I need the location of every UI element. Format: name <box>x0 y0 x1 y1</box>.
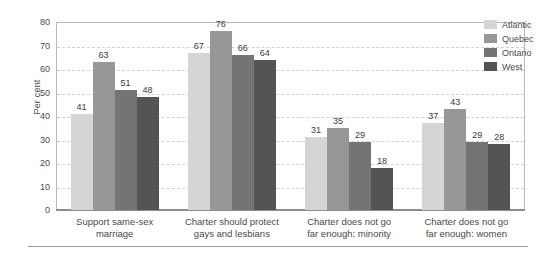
bar-group: 31352918 <box>291 22 408 210</box>
bar-value-label: 43 <box>450 97 460 107</box>
legend-item[interactable]: West <box>484 60 554 73</box>
y-axis-ticks: 80706050403020100 <box>0 22 50 210</box>
bar[interactable] <box>137 97 159 210</box>
legend-label: Quebec <box>502 34 534 44</box>
bar-slot: 67 <box>188 22 210 210</box>
y-axis-tick-label: 0 <box>6 205 50 215</box>
bar-value-label: 29 <box>355 130 365 140</box>
x-axis-category-label-line: marriage <box>56 228 173 240</box>
bar-value-label: 48 <box>143 85 153 95</box>
bar[interactable] <box>188 53 210 210</box>
y-axis-tick-label: 70 <box>6 41 50 51</box>
bar-slot: 43 <box>444 22 466 210</box>
bar-value-label: 41 <box>77 102 87 112</box>
x-axis-category-label-line: Charter does not go <box>291 216 408 228</box>
bar[interactable] <box>422 123 444 210</box>
bar[interactable] <box>210 31 232 210</box>
y-axis-tick-label: 80 <box>6 17 50 27</box>
bar-group: 41635148 <box>56 22 173 210</box>
x-axis-category-label-line: Charter should protect <box>173 216 290 228</box>
y-axis-tick-label: 30 <box>6 135 50 145</box>
bar-slot: 66 <box>232 22 254 210</box>
bar[interactable] <box>371 168 393 210</box>
bar-slot: 18 <box>371 22 393 210</box>
bar[interactable] <box>254 60 276 210</box>
bar[interactable] <box>327 128 349 210</box>
x-axis-category-label-line: Charter does not go <box>408 216 525 228</box>
footer-divider <box>28 246 528 247</box>
x-axis-category-label: Support same-sexmarriage <box>56 216 173 240</box>
bar-value-label: 37 <box>428 111 438 121</box>
legend-swatch-icon <box>484 20 497 29</box>
bar-value-label: 63 <box>99 50 109 60</box>
bar-value-label: 51 <box>121 78 131 88</box>
bar[interactable] <box>93 62 115 210</box>
x-axis-category-label: Charter does not gofar enough: women <box>408 216 525 240</box>
bar[interactable] <box>232 55 254 210</box>
bar-slot: 51 <box>115 22 137 210</box>
legend-item[interactable]: Ontario <box>484 46 554 59</box>
legend-swatch-icon <box>484 62 497 71</box>
bar-value-label: 66 <box>238 43 248 53</box>
bar-slot: 35 <box>327 22 349 210</box>
bar-chart: Per cent 80706050403020100 4163514867766… <box>0 0 556 258</box>
bar-value-label: 29 <box>472 130 482 140</box>
bar[interactable] <box>305 137 327 210</box>
y-axis-tick-label: 60 <box>6 64 50 74</box>
bars-layer: 41635148677666643135291837432928 <box>56 22 525 210</box>
x-axis-category-label: Charter does not gofar enough: minority <box>291 216 408 240</box>
legend-label: Atlantic <box>502 20 532 30</box>
bar-group: 67766664 <box>173 22 290 210</box>
bar[interactable] <box>71 114 93 210</box>
y-axis-tick-label: 40 <box>6 111 50 121</box>
y-axis-tick-label: 10 <box>6 182 50 192</box>
legend-swatch-icon <box>484 48 497 57</box>
y-axis-tick-label: 50 <box>6 88 50 98</box>
x-axis-category-label-line: far enough: minority <box>291 228 408 240</box>
x-axis-category-label-line: Support same-sex <box>56 216 173 228</box>
bar[interactable] <box>349 142 371 210</box>
bar[interactable] <box>466 142 488 210</box>
legend-label: West <box>502 62 522 72</box>
bar-slot: 64 <box>254 22 276 210</box>
bar-value-label: 76 <box>216 19 226 29</box>
bar-slot: 41 <box>71 22 93 210</box>
bar-value-label: 28 <box>494 132 504 142</box>
legend-item[interactable]: Quebec <box>484 32 554 45</box>
x-axis-category-label-line: gays and lesbians <box>173 228 290 240</box>
legend-swatch-icon <box>484 34 497 43</box>
y-axis-tick-label: 20 <box>6 158 50 168</box>
bar[interactable] <box>115 90 137 210</box>
legend: AtlanticQuebecOntarioWest <box>484 18 554 74</box>
bar-value-label: 35 <box>333 116 343 126</box>
bar-value-label: 18 <box>377 156 387 166</box>
legend-label: Ontario <box>502 48 532 58</box>
bar-value-label: 67 <box>194 41 204 51</box>
bar-value-label: 31 <box>311 125 321 135</box>
bar-value-label: 64 <box>260 48 270 58</box>
x-axis-category-label: Charter should protectgays and lesbians <box>173 216 290 240</box>
bar-slot: 37 <box>422 22 444 210</box>
bar[interactable] <box>488 144 510 210</box>
bar[interactable] <box>444 109 466 210</box>
bar-slot: 76 <box>210 22 232 210</box>
bar-slot: 31 <box>305 22 327 210</box>
x-axis-category-label-line: far enough: women <box>408 228 525 240</box>
x-axis-category-labels: Support same-sexmarriageCharter should p… <box>56 216 525 250</box>
bar-slot: 48 <box>137 22 159 210</box>
bar-slot: 63 <box>93 22 115 210</box>
legend-item[interactable]: Atlantic <box>484 18 554 31</box>
bar-slot: 29 <box>349 22 371 210</box>
